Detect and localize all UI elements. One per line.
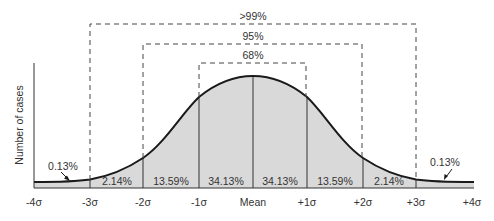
tick-label: Mean <box>240 196 266 208</box>
segment-label: 34.13% <box>208 175 244 187</box>
y-axis-label: Number of cases <box>13 85 25 164</box>
segment-label: 2.14% <box>374 175 404 187</box>
arrow-icon <box>444 169 452 180</box>
tick-label: +4σ <box>463 196 482 208</box>
curve-area-fill <box>34 76 474 188</box>
tick-label: +3σ <box>407 196 426 208</box>
arrow-icon <box>61 172 70 181</box>
bracket-label-68: 68% <box>242 49 263 61</box>
segment-label: 2.14% <box>102 175 132 187</box>
segment-label: 34.13% <box>262 175 298 187</box>
bracket-label-99: >99% <box>239 10 266 22</box>
normal-distribution-diagram: Number of cases >99% 95% 68% 2.14% 13.59… <box>0 0 494 221</box>
tick-label: -1σ <box>191 196 207 208</box>
tick-label: +1σ <box>298 196 317 208</box>
bracket-label-95: 95% <box>242 30 263 42</box>
tail-label-left: 0.13% <box>48 160 78 172</box>
segment-label: 13.59% <box>317 175 353 187</box>
segment-label: 13.59% <box>153 175 189 187</box>
tick-label: -4σ <box>26 196 42 208</box>
tail-label-right: 0.13% <box>430 156 460 168</box>
tick-label: -2σ <box>135 196 151 208</box>
tick-label: +2σ <box>354 196 373 208</box>
tick-label: -3σ <box>82 196 98 208</box>
